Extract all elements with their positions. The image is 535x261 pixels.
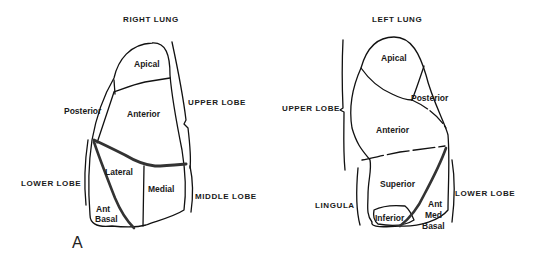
panel-label: A (72, 234, 83, 252)
left-segment-posterior: Posterior (411, 94, 448, 103)
right-segment-posterior: Posterior (64, 107, 101, 116)
right-segment-ant-basal-line1: Ant (96, 205, 110, 214)
right-lung-title: RIGHT LUNG (123, 16, 179, 24)
right-middle-lobe-label: MIDDLE LOBE (195, 193, 257, 201)
left-segment-ant-med-basal-line1: Ant (428, 200, 442, 209)
right-apical-divider (114, 78, 170, 92)
left-lung-title: LEFT LUNG (372, 16, 422, 24)
left-lingula-label: LINGULA (315, 202, 355, 210)
left-segment-ant-med-basal-line2: Med (425, 211, 442, 220)
right-segment-apical: Apical (134, 60, 160, 69)
right-segment-lateral: Lateral (105, 168, 133, 177)
left-segment-apical: Apical (381, 54, 407, 63)
lung-segments-drawing (0, 0, 535, 261)
left-lower-lobe-label: LOWER LOBE (455, 190, 515, 198)
left-segment-ant-med-basal-line3: Basal (422, 222, 445, 231)
right-lung-outline (89, 43, 185, 227)
left-segment-inferior: Inferior (375, 214, 404, 223)
right-segment-ant-basal-line2: Basal (95, 215, 118, 224)
right-segment-anterior: Anterior (127, 110, 160, 119)
right-segment-medial: Medial (148, 185, 174, 194)
left-segment-anterior: Anterior (376, 126, 409, 135)
right-lower-lobe-label: LOWER LOBE (21, 180, 81, 188)
left-segment-superior: Superior (380, 180, 415, 189)
left-upper-lobe-label: UPPER LOBE (282, 105, 340, 113)
right-oblique-fissure (94, 140, 186, 166)
right-upper-lobe-label: UPPER LOBE (188, 99, 246, 107)
